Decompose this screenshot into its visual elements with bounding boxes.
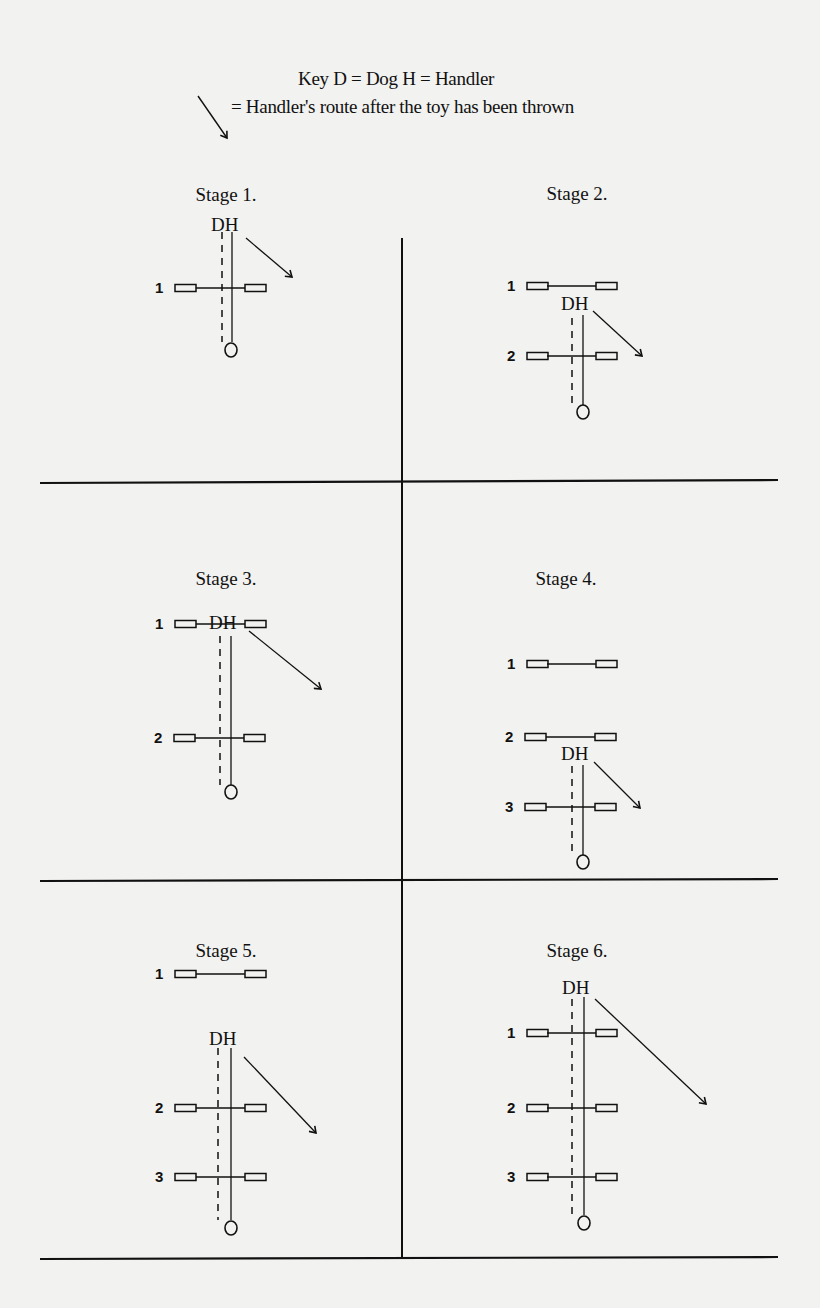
- stage-6-dog-handler-label: DH: [562, 977, 589, 999]
- stage-5-diagram: [175, 971, 316, 1236]
- stage-2-title: Stage 2.: [546, 183, 607, 205]
- stage-6-jump-2-number: 2: [507, 1099, 515, 1116]
- jump-1: [527, 283, 617, 290]
- jump-1: [175, 971, 266, 978]
- stage-5-jump-1-number: 1: [155, 965, 163, 982]
- diagram-canvas: [0, 0, 820, 1308]
- stage-6-jump-1-number: 1: [507, 1024, 515, 1041]
- stage-4-jump-1-number: 1: [507, 655, 515, 672]
- handler-route-arrow-icon: [249, 631, 321, 689]
- stage-2-jump-1-number: 1: [507, 277, 515, 294]
- stage-3-jump-1-number: 1: [155, 615, 163, 632]
- stage-1-jump-1-number: 1: [155, 279, 163, 296]
- stage-4-title: Stage 4.: [535, 568, 596, 590]
- key-legend-line-2: = Handler's route after the toy has been…: [231, 96, 574, 118]
- stage-1-title: Stage 1.: [195, 184, 256, 206]
- stage-5-title: Stage 5.: [195, 940, 256, 962]
- horizontal-divider-1: [40, 480, 778, 483]
- stage-4-jump-2-number: 2: [505, 728, 513, 745]
- stage-3-jump-2-number: 2: [154, 729, 162, 746]
- stage-3-dog-handler-label: DH: [209, 612, 236, 634]
- jump-2: [175, 1105, 266, 1112]
- stage-1-diagram: [175, 232, 292, 357]
- stage-5-jump-3-number: 3: [155, 1168, 163, 1185]
- handler-route-arrow-icon: [594, 762, 640, 808]
- stage-6-diagram: [527, 997, 706, 1230]
- jump-1: [527, 661, 617, 668]
- handler-route-arrow-icon: [595, 999, 706, 1104]
- stage-5-jump-2-number: 2: [155, 1099, 163, 1116]
- handler-route-arrow-icon: [246, 238, 292, 277]
- jump-2: [525, 734, 616, 741]
- horizontal-divider-2: [40, 879, 778, 881]
- stage-6-jump-3-number: 3: [507, 1168, 515, 1185]
- stage-4-dog-handler-label: DH: [561, 743, 588, 765]
- stage-3-title: Stage 3.: [195, 568, 256, 590]
- handler-route-arrow-icon: [593, 311, 642, 356]
- horizontal-divider-3: [40, 1257, 778, 1259]
- stage-6-title: Stage 6.: [546, 940, 607, 962]
- jump-1: [175, 285, 266, 292]
- handler-route-arrow-icon: [244, 1057, 316, 1133]
- stage-5-dog-handler-label: DH: [209, 1028, 236, 1050]
- stage-1-dog-handler-label: DH: [211, 214, 238, 236]
- jump-3: [525, 804, 616, 811]
- stage-3-diagram: [174, 621, 321, 800]
- stage-4-jump-3-number: 3: [505, 798, 513, 815]
- jump-3: [175, 1174, 266, 1181]
- stage-2-dog-handler-label: DH: [561, 293, 588, 315]
- stage-2-jump-2-number: 2: [507, 347, 515, 364]
- key-route-arrow-icon: [198, 96, 227, 138]
- key-legend-line-1: Key D = Dog H = Handler: [298, 68, 494, 90]
